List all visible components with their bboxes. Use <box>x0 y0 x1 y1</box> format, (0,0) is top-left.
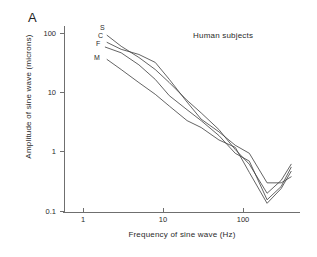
figure-panel-a: A 100 10 1 0.1 1 10 100 Amplitude of sin… <box>0 0 317 257</box>
curve-plot <box>0 0 317 257</box>
curve-s <box>107 35 291 193</box>
curve-c <box>107 42 291 182</box>
curve-m <box>107 59 291 203</box>
